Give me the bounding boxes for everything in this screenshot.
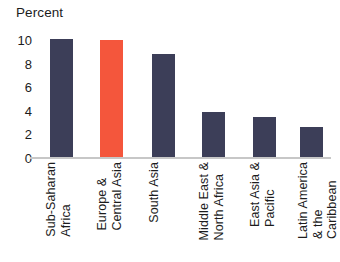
plot-area <box>36 36 331 158</box>
bar-1 <box>50 39 73 158</box>
y-axis-tick-labels: 1086420 <box>0 36 32 158</box>
bar-6 <box>300 127 323 158</box>
bar-5 <box>253 117 276 158</box>
y-axis-tick-6: 6 <box>0 81 32 94</box>
category-label-1: Sub-Saharan Africa <box>44 162 73 237</box>
y-axis-tick-4: 4 <box>0 104 32 117</box>
category-label-5: East Asia & Pacific <box>248 162 277 227</box>
y-axis-tick-8: 8 <box>0 57 32 70</box>
category-label-2: Europe & Central Asia <box>95 162 124 231</box>
bar-4 <box>202 112 225 158</box>
category-label-4: Middle East & North Africa <box>197 162 226 240</box>
x-axis-line <box>30 157 331 159</box>
x-axis-category-labels: Sub-Saharan AfricaEurope & Central AsiaS… <box>0 160 331 262</box>
category-label-6: Latin America & the Caribbean <box>296 162 340 239</box>
y-axis-tick-2: 2 <box>0 128 32 141</box>
bar-2 <box>100 40 123 158</box>
chart-title: Percent <box>16 5 63 21</box>
bar-3 <box>152 54 175 158</box>
category-label-3: South Asia <box>147 162 162 223</box>
y-axis-tick-10: 10 <box>0 34 32 47</box>
